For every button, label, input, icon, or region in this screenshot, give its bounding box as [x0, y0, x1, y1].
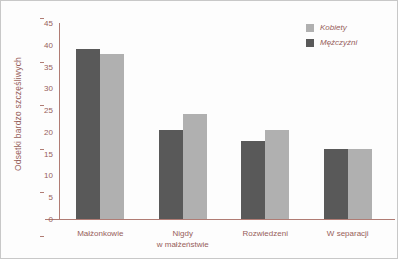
bar-group: Małżonkowie — [59, 23, 142, 219]
x-axis-category-line: W separacji — [327, 228, 369, 239]
chart-legend: KobietyMężczyźni — [306, 23, 357, 53]
bar-group: Nigdyw małżeństwie — [142, 23, 225, 219]
x-axis-line — [45, 219, 395, 220]
legend-swatch-light — [306, 24, 314, 32]
y-axis-tick-label: 10 — [44, 171, 59, 180]
y-axis-tick-label: 20 — [44, 127, 59, 136]
x-axis-category-line: Rozwiedzeni — [243, 228, 288, 239]
y-axis-tick-mark — [40, 192, 44, 193]
bar-pair — [59, 23, 142, 219]
x-axis-category-line: Małżonkowie — [77, 228, 123, 239]
y-axis-tick-mark — [40, 149, 44, 150]
bar-kobiety — [100, 54, 124, 220]
x-axis-category-line: Nigdy — [157, 228, 209, 239]
x-axis-category-label: Rozwiedzeni — [243, 228, 288, 239]
bar-mezczyzni — [159, 130, 183, 219]
legend-swatch-dark — [306, 39, 314, 47]
legend-label: Mężczyźni — [320, 38, 357, 47]
y-axis-tick-label: 5 — [49, 193, 59, 202]
x-axis-category-label: W separacji — [327, 228, 369, 239]
y-axis-tick-mark — [40, 105, 44, 106]
y-axis-title: Odsetki bardzo szczęśliwych — [13, 19, 23, 209]
y-axis-tick-label: 30 — [44, 84, 59, 93]
bar-kobiety — [183, 114, 207, 219]
chart-container: Odsetki bardzo szczęśliwych 051015202530… — [0, 0, 398, 259]
legend-item: Mężczyźni — [306, 38, 357, 47]
y-axis-tick-label: 0 — [49, 215, 59, 224]
y-axis-tick-label: 40 — [44, 40, 59, 49]
x-axis-category-label: Nigdyw małżeństwie — [157, 228, 209, 250]
y-axis-tick-label: 35 — [44, 62, 59, 71]
y-axis-tick-mark — [40, 236, 44, 237]
y-axis-tick-label: 45 — [44, 19, 59, 28]
legend-item: Kobiety — [306, 23, 357, 32]
x-axis-category-line: w małżeństwie — [157, 239, 209, 250]
x-axis-category-label: Małżonkowie — [77, 228, 123, 239]
bar-kobiety — [348, 149, 372, 219]
bar-kobiety — [265, 130, 289, 219]
y-axis-tick-mark — [40, 18, 44, 19]
y-axis-tick-label: 25 — [44, 106, 59, 115]
bar-mezczyzni — [241, 141, 265, 219]
legend-label: Kobiety — [320, 23, 347, 32]
bar-mezczyzni — [76, 49, 100, 219]
bar-pair — [224, 23, 307, 219]
y-axis-tick-label: 15 — [44, 149, 59, 158]
bar-pair — [142, 23, 225, 219]
y-axis-tick-mark — [40, 62, 44, 63]
bar-mezczyzni — [324, 149, 348, 219]
bar-group: Rozwiedzeni — [224, 23, 307, 219]
